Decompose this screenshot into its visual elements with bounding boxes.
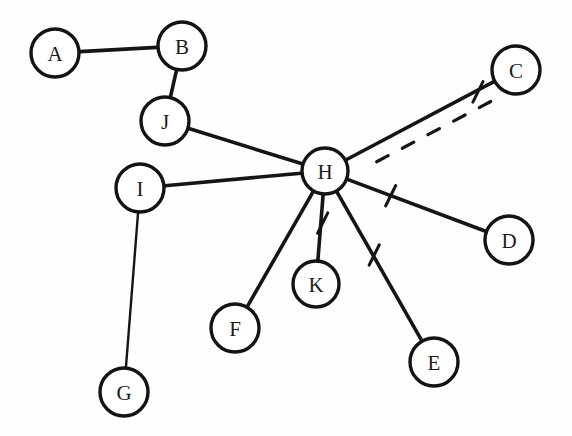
edge-H-C bbox=[346, 82, 494, 160]
graph-node-G[interactable]: G bbox=[100, 368, 148, 416]
graph-node-J[interactable]: J bbox=[141, 97, 189, 145]
graph-node-K[interactable]: K bbox=[293, 261, 339, 307]
edge-A-B bbox=[80, 47, 157, 51]
graph-node-I[interactable]: I bbox=[116, 164, 164, 212]
nodes-layer: ABCDEFGHIJK bbox=[31, 22, 540, 416]
node-label-F: F bbox=[229, 317, 241, 341]
graph-node-D[interactable]: D bbox=[485, 216, 533, 264]
graph-node-A[interactable]: A bbox=[31, 29, 79, 77]
node-label-H: H bbox=[317, 160, 332, 184]
graph-node-H[interactable]: H bbox=[302, 148, 348, 194]
edge-H-E bbox=[337, 192, 422, 340]
edge-H-C-dashed bbox=[377, 101, 493, 162]
graph-node-E[interactable]: E bbox=[410, 338, 458, 386]
graph-node-C[interactable]: C bbox=[492, 46, 540, 94]
graph-node-F[interactable]: F bbox=[211, 304, 259, 352]
edge-H-D bbox=[347, 179, 485, 231]
node-label-A: A bbox=[47, 42, 63, 66]
node-label-I: I bbox=[137, 177, 144, 201]
edge-I-H bbox=[165, 173, 301, 186]
graph-diagram: ABCDEFGHIJK bbox=[0, 0, 572, 436]
graph-node-B[interactable]: B bbox=[158, 22, 206, 70]
edge-J-H bbox=[189, 128, 302, 163]
graph-canvas: ABCDEFGHIJK bbox=[0, 0, 572, 436]
node-label-K: K bbox=[308, 273, 323, 297]
node-label-D: D bbox=[501, 229, 516, 253]
edge-I-G bbox=[126, 213, 138, 367]
node-label-J: J bbox=[161, 110, 169, 134]
node-label-G: G bbox=[116, 381, 131, 405]
node-label-B: B bbox=[175, 35, 189, 59]
node-label-E: E bbox=[428, 351, 441, 375]
edge-B-J bbox=[171, 70, 177, 96]
node-label-C: C bbox=[509, 59, 523, 83]
